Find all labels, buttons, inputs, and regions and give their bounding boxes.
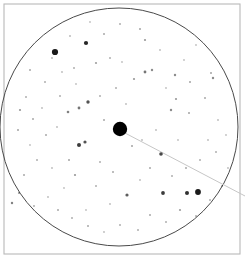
star-point <box>144 39 146 41</box>
star-point <box>133 78 135 80</box>
star-point <box>177 139 179 141</box>
star-point <box>17 129 19 131</box>
star-point <box>151 69 153 71</box>
star-point <box>195 189 201 195</box>
star-point <box>56 126 58 128</box>
star-point <box>99 95 101 97</box>
star-point <box>85 209 87 211</box>
star-point <box>115 87 117 89</box>
star-point <box>221 185 223 187</box>
star-point <box>179 209 181 211</box>
star-point <box>137 229 139 231</box>
star-point <box>121 61 123 63</box>
star-point <box>44 81 46 83</box>
star-point <box>109 203 111 205</box>
star-point <box>183 59 185 61</box>
star-point <box>33 205 35 207</box>
star-point <box>63 187 65 189</box>
star-point <box>89 21 91 23</box>
star-point <box>18 192 20 194</box>
star-point <box>149 214 151 216</box>
star-point <box>210 72 212 74</box>
star-point <box>188 112 190 114</box>
star-point <box>52 49 58 55</box>
star-point <box>195 215 197 217</box>
star-point <box>159 152 163 156</box>
star-point <box>103 231 105 233</box>
star-point <box>144 71 147 74</box>
star-point <box>217 119 219 121</box>
star-point <box>84 41 88 45</box>
star-point <box>175 98 177 100</box>
star-point <box>204 97 206 99</box>
finder-chart <box>0 0 245 258</box>
star-point <box>225 134 227 136</box>
star-point <box>103 33 105 35</box>
star-point <box>139 179 141 181</box>
star-point <box>185 191 189 195</box>
star-point <box>69 35 71 37</box>
star-point <box>99 161 101 163</box>
star-point <box>119 23 121 25</box>
star-point <box>45 134 47 136</box>
star-point <box>141 139 143 141</box>
star-point <box>51 167 53 169</box>
star-point <box>75 83 77 85</box>
star-point <box>11 202 13 204</box>
star-point <box>171 175 173 177</box>
star-point <box>73 67 75 69</box>
star-point <box>23 174 25 176</box>
star-point <box>199 159 201 161</box>
star-point <box>59 95 61 97</box>
star-point <box>215 151 217 153</box>
star-point <box>131 145 133 147</box>
star-point <box>29 144 31 146</box>
star-point <box>32 118 34 120</box>
star-point <box>29 69 31 71</box>
star-point <box>83 140 86 143</box>
star-point <box>189 81 191 83</box>
star-point <box>25 96 27 98</box>
star-point <box>87 225 89 227</box>
finder-chart-canvas <box>0 0 245 258</box>
star-point <box>209 199 211 201</box>
star-point <box>159 49 161 51</box>
star-point <box>95 185 97 187</box>
star-point <box>19 109 21 111</box>
star-point <box>174 74 176 76</box>
star-point <box>68 159 70 161</box>
star-point <box>125 103 127 105</box>
star-point <box>74 174 76 176</box>
star-point <box>149 167 151 169</box>
star-point <box>207 139 209 141</box>
star-point <box>71 217 73 219</box>
star-point <box>67 111 70 114</box>
star-point <box>165 87 167 89</box>
target-object-marker[interactable] <box>113 122 127 136</box>
star-point <box>161 191 165 195</box>
star-point <box>95 62 97 64</box>
star-point <box>47 196 49 198</box>
star-point <box>41 107 43 109</box>
star-point <box>119 224 121 226</box>
star-point <box>185 167 187 169</box>
star-point <box>109 57 111 59</box>
star-point <box>61 71 63 73</box>
star-point <box>212 77 214 79</box>
star-point <box>77 143 81 147</box>
star-point <box>195 44 197 46</box>
star-point <box>78 107 81 110</box>
star-point <box>103 119 105 121</box>
star-point <box>112 171 114 173</box>
star-point <box>165 221 167 223</box>
star-point <box>170 109 172 111</box>
star-point <box>125 193 128 196</box>
star-point <box>51 57 53 59</box>
star-point <box>155 129 157 131</box>
star-point <box>57 209 59 211</box>
star-point <box>227 167 229 169</box>
star-point <box>86 100 89 103</box>
star-point <box>36 159 38 161</box>
star-point <box>139 28 141 30</box>
